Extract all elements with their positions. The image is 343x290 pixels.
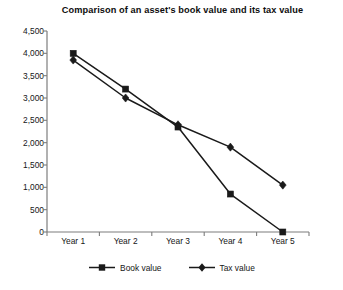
diamond-marker-icon <box>227 143 234 151</box>
chart-axes <box>43 31 309 236</box>
square-marker-icon <box>70 50 76 56</box>
legend-item-2[interactable]: Tax value <box>188 262 255 273</box>
diamond-marker-icon <box>188 262 216 273</box>
legend-item-1[interactable]: Book value <box>88 262 161 273</box>
diamond-marker-icon <box>70 56 77 64</box>
x-axis-tick-label: Year 1 <box>43 236 103 246</box>
diamond-marker-icon <box>279 181 286 189</box>
square-marker-icon <box>123 86 129 92</box>
x-axis-tick-label: Year 3 <box>148 236 208 246</box>
x-axis-tick-label: Year 5 <box>253 236 313 246</box>
square-marker-icon <box>88 262 116 273</box>
series-line-1 <box>73 53 283 232</box>
line-chart: Comparison of an asset's book value and … <box>0 0 343 290</box>
square-marker-icon <box>280 229 286 235</box>
legend-item-label: Book value <box>120 263 161 273</box>
x-axis-tick-label: Year 2 <box>96 236 156 246</box>
square-marker-icon <box>227 191 233 197</box>
diamond-marker-icon <box>122 94 129 102</box>
legend-item-label: Tax value <box>220 263 255 273</box>
x-axis-tick-labels: Year 1Year 2Year 3Year 4Year 5 <box>47 236 309 250</box>
x-axis-tick-label: Year 4 <box>200 236 260 246</box>
chart-series <box>70 50 286 235</box>
chart-legend: Book valueTax value <box>0 262 343 273</box>
